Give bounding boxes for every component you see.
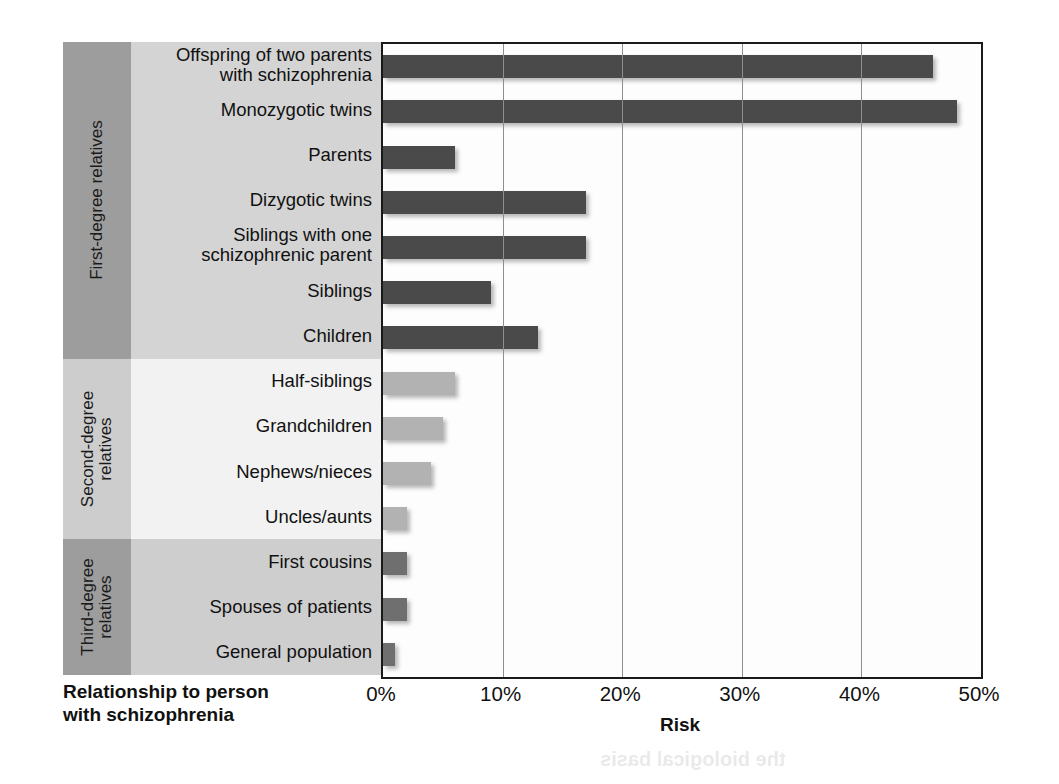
y-axis-title: Relationship to person with schizophreni…	[63, 680, 363, 726]
category-label-row: Nephews/nieces	[131, 449, 381, 494]
gridline-40	[861, 44, 862, 677]
schizophrenia-risk-figure: POSITIVE SYMPTOMSPeople with schizophren…	[0, 0, 1059, 784]
category-label: Parents	[308, 145, 372, 165]
bar	[383, 643, 395, 666]
gridline-10	[503, 44, 504, 677]
category-label: Siblings	[307, 281, 372, 301]
category-label-row: Parents	[131, 132, 381, 177]
gridline-20	[622, 44, 623, 677]
category-label: Nephews/nieces	[236, 462, 372, 482]
category-label-line-1: Siblings with one	[201, 225, 372, 245]
category-label-line-1: Uncles/aunts	[265, 507, 372, 527]
x-tick-label-10: 10%	[480, 682, 521, 706]
category-label-row: Siblings with oneschizophrenic parent	[131, 223, 381, 268]
category-label-line-2: schizophrenic parent	[201, 245, 372, 265]
bar	[383, 598, 407, 621]
y-axis-title-line-1: Relationship to person	[63, 680, 363, 703]
x-tick-label-50: 50%	[958, 682, 999, 706]
category-label-line-1: Offspring of two parents	[176, 45, 372, 65]
category-label-row: Uncles/aunts	[131, 494, 381, 539]
category-label-row: Siblings	[131, 268, 381, 313]
bleed-through-text: the biological basis	[600, 748, 786, 771]
group-band-first-degree: First-degree relatives	[63, 42, 131, 359]
group-band-label-line-1: First-degree relatives	[88, 120, 106, 280]
category-label: Dizygotic twins	[250, 190, 372, 210]
group-band-second-degree: Second-degreerelatives	[63, 359, 131, 540]
bar	[383, 326, 538, 349]
category-label: Half-siblings	[271, 371, 372, 391]
x-tick-label-40: 40%	[839, 682, 880, 706]
category-label-line-1: First cousins	[268, 552, 372, 572]
category-label-line-1: General population	[216, 642, 372, 662]
category-label-row: Half-siblings	[131, 359, 381, 404]
group-band-label-first-degree: First-degree relatives	[88, 120, 106, 280]
bar	[383, 462, 431, 485]
category-label: Offspring of two parentswith schizophren…	[176, 45, 372, 85]
category-label: First cousins	[268, 552, 372, 572]
bar	[383, 146, 455, 169]
y-axis-title-line-2: with schizophrenia	[63, 703, 363, 726]
category-label-line-1: Parents	[308, 145, 372, 165]
category-label-line-1: Monozygotic twins	[221, 100, 372, 120]
x-tick-label-20: 20%	[600, 682, 641, 706]
gridline-30	[742, 44, 743, 677]
plot-area	[381, 42, 983, 679]
category-label-row: Grandchildren	[131, 404, 381, 449]
category-label-row: Dizygotic twins	[131, 178, 381, 223]
category-label-line-1: Grandchildren	[256, 416, 372, 436]
bar	[383, 372, 455, 395]
category-label-line-2: with schizophrenia	[176, 65, 372, 85]
group-band-label-line-2: relatives	[97, 558, 115, 655]
group-band-label-third-degree: Third-degreerelatives	[79, 558, 115, 655]
bar	[383, 236, 586, 259]
bar	[383, 507, 407, 530]
bar	[383, 100, 957, 123]
bar	[383, 552, 407, 575]
group-band-label-second-degree: Second-degreerelatives	[79, 391, 115, 507]
bar	[383, 281, 491, 304]
x-tick-label-0: 0%	[366, 682, 396, 706]
group-band-label-line-1: Second-degree	[79, 391, 97, 507]
category-label: Grandchildren	[256, 416, 372, 436]
category-label: Children	[303, 326, 372, 346]
bar	[383, 191, 586, 214]
category-label-row: Spouses of patients	[131, 585, 381, 630]
category-label-row: General population	[131, 630, 381, 675]
group-band-label-line-1: Third-degree	[79, 558, 97, 655]
category-label-line-1: Dizygotic twins	[250, 190, 372, 210]
category-label-line-1: Nephews/nieces	[236, 462, 372, 482]
group-band-label-line-2: relatives	[97, 391, 115, 507]
category-label-row: Monozygotic twins	[131, 87, 381, 132]
category-label: Uncles/aunts	[265, 507, 372, 527]
category-label-line-1: Children	[303, 326, 372, 346]
x-tick-label-30: 30%	[719, 682, 760, 706]
category-label: Siblings with oneschizophrenic parent	[201, 225, 372, 265]
category-label: Spouses of patients	[210, 597, 373, 617]
category-label-row: First cousins	[131, 539, 381, 584]
category-label-row: Offspring of two parentswith schizophren…	[131, 42, 381, 87]
category-label-line-1: Siblings	[307, 281, 372, 301]
category-label: General population	[216, 642, 372, 662]
category-label-row: Children	[131, 313, 381, 358]
category-label-line-1: Half-siblings	[271, 371, 372, 391]
bar	[383, 55, 933, 78]
x-axis-title: Risk	[660, 714, 700, 736]
group-band-third-degree: Third-degreerelatives	[63, 539, 131, 675]
bar	[383, 417, 443, 440]
category-label: Monozygotic twins	[221, 100, 372, 120]
category-label-line-1: Spouses of patients	[210, 597, 373, 617]
